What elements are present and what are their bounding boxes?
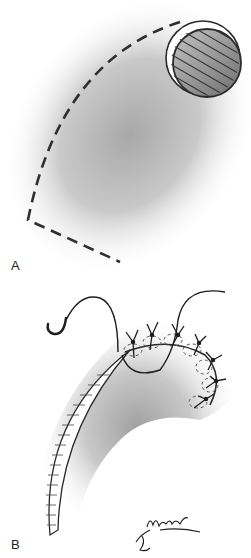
panel-a: A: [0, 0, 251, 280]
panel-label-a: A: [11, 258, 20, 273]
curved-needle-icon: [48, 318, 66, 334]
artist-signature: [136, 518, 200, 551]
panel-label-b: B: [11, 537, 20, 552]
panel-a-illustration: [0, 0, 251, 280]
panel-b: B: [0, 280, 251, 558]
panel-b-illustration: [0, 280, 251, 558]
